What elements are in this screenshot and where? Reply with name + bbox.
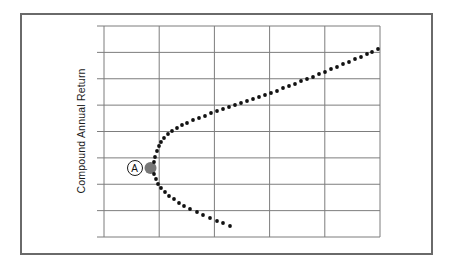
point-a-badge: A <box>127 160 143 176</box>
point-a-label: A <box>131 163 138 174</box>
frontier-chart <box>0 0 453 268</box>
y-axis-label: Compound Annual Return <box>75 68 87 193</box>
figure-root: { "figure": { "kind": "scatter-figure", … <box>0 0 453 268</box>
